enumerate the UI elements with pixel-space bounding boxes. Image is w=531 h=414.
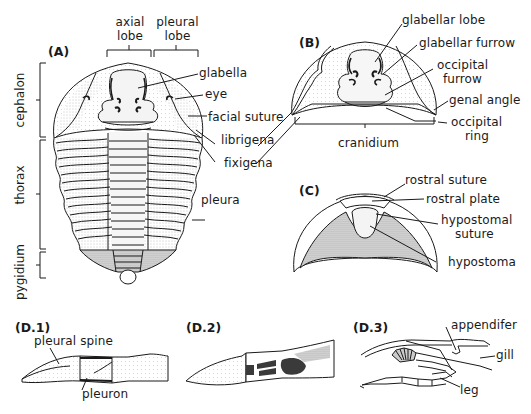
facial-suture-label: facial suture — [208, 111, 284, 124]
pleural-lobe-label-line2: lobe — [155, 30, 200, 43]
pleuron-label: pleuron — [82, 388, 128, 401]
panel-a-label: (A) — [48, 44, 69, 59]
thorax-label: thorax — [13, 160, 27, 210]
occipital-ring-label-line2: ring — [465, 130, 489, 143]
panel-b-label: (B) — [299, 35, 320, 50]
pleural-lobe-label-line1: pleural — [155, 16, 200, 29]
axial-lobe-bracket — [107, 45, 151, 57]
glabellar-furrow-label: glabellar furrow — [419, 37, 515, 50]
cranidium-bracket — [295, 117, 434, 128]
thorax-segments — [54, 132, 203, 250]
panel-c-label: (C) — [299, 183, 320, 198]
panel-d2-section — [186, 340, 334, 385]
glabellar-lobe-label: glabellar lobe — [402, 14, 485, 27]
pleural-spine-label: pleural spine — [34, 335, 113, 348]
pygidium-label: pygidium — [13, 242, 27, 302]
genal-angle-label: genal angle — [449, 94, 521, 107]
cranidium-label: cranidium — [338, 137, 399, 150]
panel-d3-appendage — [360, 327, 495, 388]
occipital-ring-label-line1: occipital — [451, 116, 502, 129]
panel-d1-label: (D.1) — [15, 320, 50, 335]
leg-label: leg — [460, 384, 479, 397]
librigena-label: librigena — [221, 134, 274, 147]
occipital-furrow-label-line1: occipital — [437, 59, 488, 72]
pygidium-bracket — [36, 252, 46, 278]
rostral-suture-label: rostral suture — [405, 174, 487, 187]
occipital-furrow-label-line2: furrow — [443, 73, 482, 86]
pleural-lobe-bracket — [154, 45, 198, 57]
panel-d3-label: (D.3) — [353, 320, 388, 335]
panel-d2-label: (D.2) — [186, 320, 221, 335]
appendifer-label: appendifer — [451, 319, 517, 332]
hypostomal-suture-label-line1: hypostomal — [441, 214, 512, 227]
hypostoma-label: hypostoma — [448, 256, 516, 269]
gill-label: gill — [496, 349, 514, 362]
eye-label: eye — [205, 88, 227, 101]
cephalon-label: cephalon — [13, 70, 27, 130]
panel-d1-pleuron — [22, 348, 168, 390]
axial-lobe-label-line2: lobe — [110, 30, 150, 43]
pleura-label: pleura — [201, 194, 240, 207]
hypostomal-suture-label-line2: suture — [455, 228, 494, 241]
glabella-label: glabella — [199, 67, 247, 80]
thorax-bracket — [36, 140, 46, 249]
panel-a-trilobite — [36, 45, 215, 284]
axial-lobe-label-line1: axial — [110, 16, 150, 29]
pygidium-shape — [80, 250, 176, 272]
rostral-plate-label: rostral plate — [426, 193, 500, 206]
fixigena-label: fixigena — [224, 157, 273, 170]
cephalon-bracket — [36, 63, 46, 137]
